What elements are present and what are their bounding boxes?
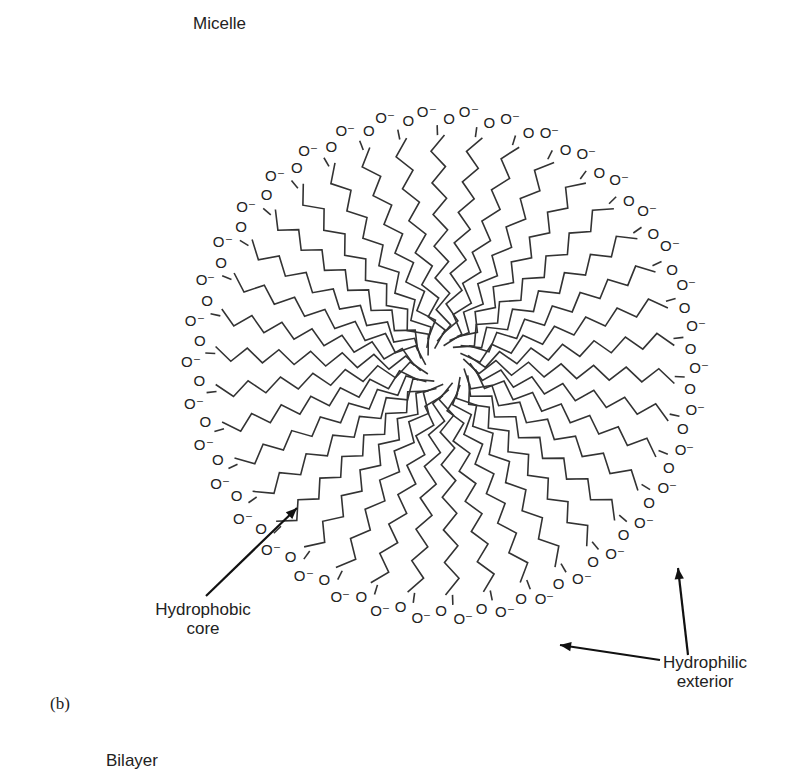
hydrocarbon-chain xyxy=(216,362,428,397)
anionic-oxygen: O⁻ xyxy=(194,436,214,453)
hydrocarbon-chain xyxy=(476,370,656,457)
anionic-oxygen: O⁻ xyxy=(453,610,473,627)
carbonyl-oxygen: O xyxy=(325,138,337,155)
carbonyl-oxygen: O xyxy=(587,553,599,570)
carbonyl-oxygen: O xyxy=(515,590,527,607)
anionic-oxygen: O⁻ xyxy=(331,588,351,605)
anionic-oxygen: O⁻ xyxy=(233,510,253,527)
carbonyl-oxygen: O xyxy=(476,600,488,617)
carbonyl-oxygen: O xyxy=(291,159,303,176)
anionic-oxygen: O⁻ xyxy=(572,570,592,587)
micelle-title: Micelle xyxy=(193,15,246,34)
carbonyl-oxygen: O xyxy=(560,141,572,158)
hydrophilic-arrow-2 xyxy=(678,568,688,655)
anionic-oxygen: O⁻ xyxy=(676,276,696,293)
carbonyl-oxygen: O xyxy=(643,494,655,511)
hydrocarbon-chain xyxy=(304,389,436,547)
annotation-arrows xyxy=(206,508,688,660)
carbonyl-oxygen: O xyxy=(255,520,267,537)
anionic-oxygen: O⁻ xyxy=(210,475,230,492)
anionic-oxygen: O⁻ xyxy=(500,110,520,127)
hydrophobic-label-line2: core xyxy=(143,620,263,639)
anionic-oxygen: O⁻ xyxy=(540,124,560,141)
arrowhead-icon xyxy=(560,642,572,651)
hydrocarbon-chain xyxy=(463,359,674,384)
anionic-oxygen: O⁻ xyxy=(213,233,233,250)
anionic-oxygen: O⁻ xyxy=(675,441,695,458)
carbonyl-oxygen: O xyxy=(684,380,696,397)
hydrocarbon-chain xyxy=(431,135,451,341)
carbonyl-oxygen: O xyxy=(443,110,455,127)
anionic-oxygen: O⁻ xyxy=(634,514,654,531)
anionic-oxygen: O⁻ xyxy=(459,103,479,120)
hydrophilic-label-line2: exterior xyxy=(650,673,760,692)
carbonyl-oxygen: O xyxy=(553,575,565,592)
carbonyl-oxygen: O xyxy=(261,186,273,203)
carbonyl-oxygen: O xyxy=(623,192,635,209)
anionic-oxygen: O⁻ xyxy=(686,317,706,334)
carbonyl-oxygen: O xyxy=(403,112,415,129)
carbonyl-oxygen: O xyxy=(395,598,407,615)
carbonyl-oxygen: O xyxy=(677,420,689,437)
anionic-oxygen: O⁻ xyxy=(685,401,705,418)
carbonyl-oxygen: O xyxy=(235,218,247,235)
anionic-oxygen: O⁻ xyxy=(535,590,555,607)
hydrophilic-exterior-label: Hydrophilic exterior xyxy=(650,654,760,691)
hydrocarbon-chain xyxy=(450,162,555,340)
anionic-oxygen: O⁻ xyxy=(375,109,395,126)
hydrocarbon-chain xyxy=(222,309,414,365)
anionic-oxygen: O⁻ xyxy=(236,198,256,215)
anionic-oxygen: O⁻ xyxy=(261,541,281,558)
carbonyl-oxygen: O xyxy=(215,254,227,271)
carbonyl-oxygen: O xyxy=(355,588,367,605)
carbonyl-oxygen: O xyxy=(285,548,297,565)
hydrocarbon-chain xyxy=(461,236,638,348)
hydrocarbon-chain xyxy=(396,138,445,349)
anionic-oxygen: O⁻ xyxy=(576,145,596,162)
carbonyl-oxygen: O xyxy=(435,602,447,619)
anionic-oxygen: O⁻ xyxy=(637,202,657,219)
carbonyl-oxygen: O xyxy=(231,487,243,504)
anionic-oxygen: O⁻ xyxy=(294,567,314,584)
anionic-oxygen: O⁻ xyxy=(609,171,629,188)
carbonyl-oxygen: O xyxy=(363,122,375,139)
carbonyl-oxygen: O xyxy=(194,332,206,349)
carbonyl-oxygen: O xyxy=(193,372,205,389)
carbonyl-oxygen: O xyxy=(594,164,606,181)
carbonyl-oxygen: O xyxy=(201,292,213,309)
carbonyl-oxygen: O xyxy=(679,299,691,316)
hydrocarbon-chain xyxy=(216,347,421,371)
anionic-oxygen: O⁻ xyxy=(184,395,204,412)
anionic-oxygen: O⁻ xyxy=(495,603,515,620)
carbonyl-oxygen: O xyxy=(685,340,697,357)
hydrophilic-arrow-1 xyxy=(560,645,660,660)
micelle-head-groups: OO⁻OO⁻OO⁻OO⁻OO⁻OO⁻OO⁻OO⁻OO⁻OO⁻OO⁻OO⁻OO⁻O… xyxy=(181,103,709,627)
hydrocarbon-chain xyxy=(222,371,418,431)
anionic-oxygen: O⁻ xyxy=(185,312,205,329)
anionic-oxygen: O⁻ xyxy=(689,359,709,376)
anionic-oxygen: O⁻ xyxy=(265,167,285,184)
anionic-oxygen: O⁻ xyxy=(196,271,216,288)
anionic-oxygen: O⁻ xyxy=(411,609,431,626)
carbonyl-oxygen: O xyxy=(647,225,659,242)
carbonyl-oxygen: O xyxy=(523,124,535,141)
hydrocarbon-chain xyxy=(276,391,428,521)
hydrocarbon-chain xyxy=(469,384,588,547)
carbonyl-oxygen: O xyxy=(212,451,224,468)
hydrocarbon-chain xyxy=(442,138,482,334)
hydrocarbon-chain xyxy=(439,383,459,595)
hydrophobic-label-line1: Hydrophobic xyxy=(143,601,263,620)
hydrophobic-core-label: Hydrophobic core xyxy=(143,601,263,638)
anionic-oxygen: O⁻ xyxy=(657,479,677,496)
carbonyl-oxygen: O xyxy=(663,459,675,476)
panel-label: (b) xyxy=(50,695,70,714)
carbonyl-oxygen: O xyxy=(199,413,211,430)
anionic-oxygen: O⁻ xyxy=(336,122,356,139)
hydrocarbon-chain xyxy=(252,240,421,359)
carbonyl-oxygen: O xyxy=(618,526,630,543)
anionic-oxygen: O⁻ xyxy=(605,545,625,562)
anionic-oxygen: O⁻ xyxy=(417,103,437,120)
anionic-oxygen: O⁻ xyxy=(181,353,201,370)
anionic-oxygen: O⁻ xyxy=(660,237,680,254)
micelle-chains xyxy=(216,135,675,595)
